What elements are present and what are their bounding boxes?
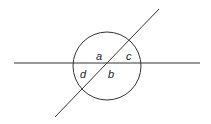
angle-label-a: a	[96, 50, 102, 62]
angle-label-c: c	[126, 50, 132, 62]
angle-label-b: b	[108, 68, 114, 80]
angles-diagram: a c d b	[0, 0, 211, 124]
circle	[73, 32, 141, 100]
angle-label-d: d	[80, 68, 87, 80]
